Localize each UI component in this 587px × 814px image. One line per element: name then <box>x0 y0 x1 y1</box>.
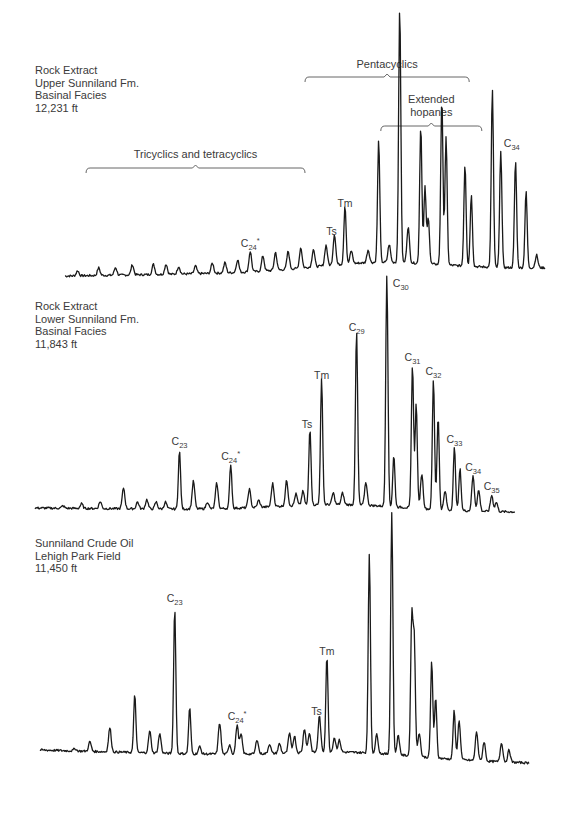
peak-label: C24* <box>221 449 240 465</box>
sample-label-line: Lower Sunniland Fm. <box>35 313 139 325</box>
peak-label: C34 <box>465 461 481 476</box>
peak-label: Tm <box>314 369 329 381</box>
biomarker-chromatogram-figure: Rock Extract Upper Sunniland Fm. Basinal… <box>0 0 587 814</box>
peak-label: Ts <box>302 418 313 430</box>
peak-label: C30 <box>393 277 409 292</box>
bracket-label: Tricyclics and tetracyclics <box>134 148 258 160</box>
peak-label: Ts <box>311 705 322 717</box>
sample-label-line: Lehigh Park Field <box>35 550 121 562</box>
bracket-brace <box>305 74 469 82</box>
bracket-label: Pentacyclics <box>357 58 419 70</box>
peak-label: C23 <box>172 435 188 450</box>
sample-label-line: 12,231 ft <box>35 102 78 114</box>
sample-label-line: Sunniland Crude Oil <box>35 537 133 549</box>
sample-label-line: Upper Sunniland Fm. <box>35 77 139 89</box>
panel-lower-sunniland: Rock Extract Lower Sunniland Fm. Basinal… <box>35 276 515 512</box>
peak-label: Tm <box>337 197 352 209</box>
peak-label: C32 <box>425 365 441 380</box>
peak-label: C34 <box>504 137 520 152</box>
bracket-label: Extended <box>408 93 454 105</box>
panel-crude-oil: Sunniland Crude Oil Lehigh Park Field 11… <box>35 513 529 764</box>
chromatogram-trace <box>65 13 545 277</box>
peak-label: C35 <box>484 480 500 495</box>
sample-label-line: Basinal Facies <box>35 89 107 101</box>
peak-label: C29 <box>349 321 365 336</box>
sample-label-line: Rock Extract <box>35 300 97 312</box>
peak-label: C33 <box>446 433 462 448</box>
bracket-brace <box>381 123 482 131</box>
bracket-group: Tricyclics and tetracyclicsPentacyclicsE… <box>86 58 482 173</box>
peak-label-group: C23C24*TsTm <box>167 592 335 725</box>
peak-label: Tm <box>319 645 334 657</box>
bracket-label: hopanes <box>410 106 453 118</box>
peak-label: C31 <box>405 351 421 366</box>
sample-label-line: 11,450 ft <box>35 562 77 574</box>
peak-label: C24* <box>241 236 260 252</box>
bracket-brace <box>86 165 305 173</box>
sample-label-line: Rock Extract <box>35 64 97 76</box>
sample-label-line: Basinal Facies <box>35 325 107 337</box>
peak-label: C23 <box>167 592 183 607</box>
peak-label: C24* <box>228 709 247 725</box>
panel-upper-sunniland: Rock Extract Upper Sunniland Fm. Basinal… <box>35 13 545 277</box>
sample-label-line: 11,843 ft <box>35 338 77 350</box>
peak-label: Ts <box>326 225 337 237</box>
peak-label-group: C23C24*TsTmC29C30C31C32C33C34C35 <box>172 277 500 495</box>
